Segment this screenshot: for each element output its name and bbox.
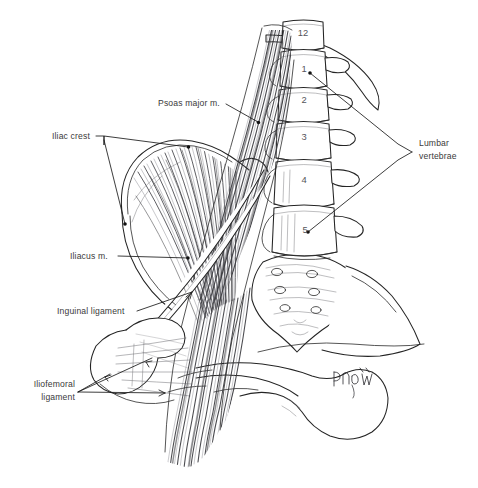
anatomical-figure: Psoas major m. Iliac crest Lumbar verteb… bbox=[0, 0, 478, 488]
label-iliac-crest: Iliac crest bbox=[52, 131, 90, 141]
vertebra-number-l3: 3 bbox=[301, 131, 306, 142]
figure-background bbox=[0, 0, 478, 488]
leader-dot-psoas bbox=[257, 121, 260, 124]
label-psoas-major: Psoas major m. bbox=[158, 98, 220, 108]
vertebra-number-l2: 2 bbox=[301, 94, 306, 105]
label-iliacus: Iliacus m. bbox=[70, 251, 108, 261]
label-iliofemoral-ligament-line1: Iliofemoral bbox=[34, 379, 75, 389]
label-lumbar-vertebrae-line2: vertebrae bbox=[419, 151, 457, 161]
label-inguinal-ligament: Inguinal ligament bbox=[57, 306, 125, 316]
vertebra-number-t12: 12 bbox=[298, 27, 308, 38]
vertebra-number-l1: 1 bbox=[301, 63, 306, 74]
vertebra-number-l4: 4 bbox=[301, 174, 306, 185]
label-lumbar-vertebrae-line1: Lumbar bbox=[419, 138, 449, 148]
vertebra-number-l5: 5 bbox=[302, 224, 307, 235]
label-iliofemoral-ligament-line2: ligament bbox=[41, 392, 75, 402]
leader-dot-l1 bbox=[308, 71, 312, 75]
leader-dot-iliacus bbox=[186, 256, 189, 259]
leader-dot-crest-bottom bbox=[123, 222, 127, 226]
illustration-canvas: Psoas major m. Iliac crest Lumbar verteb… bbox=[0, 0, 478, 488]
leader-dot-crest-top bbox=[187, 145, 191, 149]
